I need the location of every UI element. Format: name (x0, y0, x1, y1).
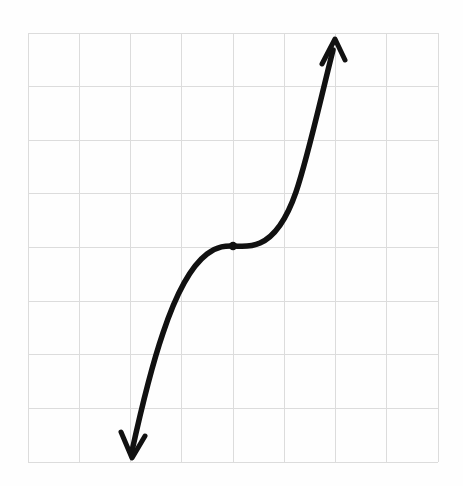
figure-root (0, 0, 463, 486)
inflection-point (229, 242, 237, 250)
cubic-curve-plot (0, 0, 463, 486)
